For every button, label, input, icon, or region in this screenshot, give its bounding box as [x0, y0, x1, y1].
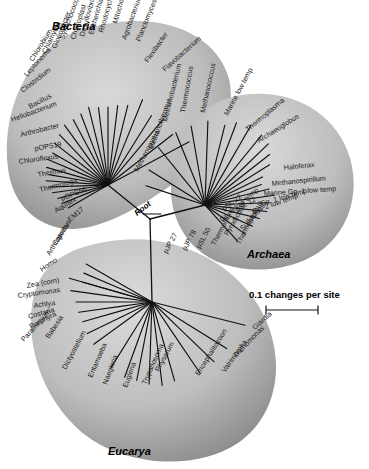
domain-title-eucarya: Eucarya	[108, 445, 151, 457]
domain-label-archaea: Archaea	[246, 248, 290, 260]
scale-bar: 0.1 changes per site	[249, 289, 340, 315]
phylogenetic-tree-figure: FlavobacteriumFlexibacterPlanctomycesAgr…	[0, 0, 369, 469]
scale-bar-line	[266, 306, 318, 315]
domain-label-eucarya: Eucarya	[108, 445, 151, 457]
domain-title-archaea: Archaea	[246, 248, 290, 260]
domain-label-bacteria: Bacteria	[52, 20, 95, 32]
domain-title-bacteria: Bacteria	[52, 20, 95, 32]
scale-bar-label: 0.1 changes per site	[249, 289, 340, 300]
tree-canvas: FlavobacteriumFlexibacterPlanctomycesAgr…	[0, 0, 369, 469]
